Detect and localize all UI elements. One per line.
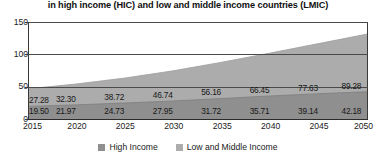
gridline [28, 22, 368, 23]
value-label-low-and-middle-income: 46.74 [153, 91, 173, 100]
value-label-low-and-middle-income: 89.28 [342, 82, 362, 91]
value-label-high-income: 24.73 [104, 107, 124, 116]
value-label-high-income: 39.14 [298, 107, 318, 116]
value-label-low-and-middle-income: 38.72 [104, 93, 124, 102]
value-label-low-and-middle-income: 32.30 [56, 95, 76, 104]
legend-item[interactable]: High Income [98, 142, 157, 152]
x-tick-label: 2045 [298, 121, 340, 132]
x-axis: 20152020202520302035204020452050 [28, 121, 368, 134]
chart-title: in high income (HIC) and low and middle … [0, 0, 376, 11]
x-tick-label: 2040 [250, 121, 292, 132]
x-tick-label: 2035 [201, 121, 243, 132]
legend-item[interactable]: Low and Middle Income [176, 142, 278, 152]
value-label-low-and-middle-income: 27.28 [29, 96, 49, 105]
plot-area: 27.2832.3038.7246.7456.1666.4577.6389.28… [28, 22, 368, 120]
gridline [28, 54, 368, 55]
value-label-low-and-middle-income: 56.16 [201, 88, 221, 97]
legend-label: Low and Middle Income [187, 142, 278, 152]
x-tick-label: 2015 [12, 121, 54, 132]
value-label-low-and-middle-income: 66.45 [250, 86, 270, 95]
x-tick-label: 2025 [104, 121, 146, 132]
chart-legend: High IncomeLow and Middle Income [0, 140, 376, 154]
legend-swatch-icon [176, 144, 183, 151]
stacked-area-chart: in high income (HIC) and low and middle … [0, 0, 376, 160]
x-tick-label: 2050 [343, 121, 376, 132]
x-axis-baseline [28, 119, 368, 120]
y-axis: 050100150 [0, 22, 28, 120]
legend-swatch-icon [98, 144, 105, 151]
value-label-high-income: 27.95 [153, 107, 173, 116]
value-label-high-income: 42.18 [342, 107, 362, 116]
value-label-high-income: 35.71 [250, 107, 270, 116]
plot-border-right [367, 22, 368, 120]
value-label-high-income: 21.97 [56, 107, 76, 116]
x-tick-label: 2020 [56, 121, 98, 132]
value-label-high-income: 31.72 [201, 107, 221, 116]
x-tick-label: 2030 [153, 121, 195, 132]
value-label-low-and-middle-income: 77.63 [298, 84, 318, 93]
value-label-high-income: 19.50 [29, 107, 49, 116]
legend-label: High Income [109, 142, 157, 152]
